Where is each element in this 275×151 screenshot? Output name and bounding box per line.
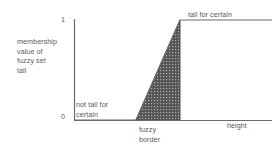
y-tick-label-0: 0 [61,113,65,121]
y-axis-caption: membership value of fuzzy set tall [17,37,79,75]
annotation-fuzzy-border: fuzzy border [139,125,189,144]
fuzzy-membership-figure: membership value of fuzzy set tall 1 0 n… [0,0,275,151]
annotation-not-tall-for-certain: not tall for certain [76,100,136,119]
y-tick-label-1: 1 [61,16,65,24]
x-axis-caption: height [227,121,267,131]
annotation-tall-for-certain: tall for certain [188,10,268,20]
